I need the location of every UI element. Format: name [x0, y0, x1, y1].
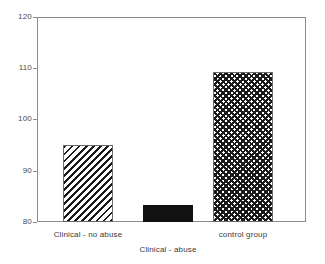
y-axis-tick-mark-100 [33, 119, 37, 120]
y-axis-tick-mark-90 [33, 171, 37, 172]
y-axis-tick-label-120: 120 [2, 13, 32, 21]
y-axis-tick-label-100: 100 [2, 115, 32, 123]
y-axis-tick-mark-110 [33, 68, 37, 69]
y-axis-tick-mark-120 [33, 17, 37, 18]
x-axis-label-control-group: control group [198, 230, 288, 239]
bar-clinical-no-abuse [63, 145, 113, 222]
bar-clinical-abuse [143, 205, 193, 222]
y-axis-tick-label-90: 90 [2, 167, 32, 175]
x-axis-label-clinical-no-abuse: Clinical - no abuse [38, 230, 138, 239]
y-axis-tick-label-80: 80 [2, 218, 32, 226]
bar-chart: 120 110 100 90 80 Clinical - no abuse Cl… [0, 0, 325, 264]
x-axis-label-clinical-abuse: Clinical - abuse [118, 245, 218, 254]
y-axis-tick-label-110: 110 [2, 64, 32, 72]
y-axis-tick-mark-80 [33, 222, 37, 223]
bar-control-group [213, 72, 273, 222]
